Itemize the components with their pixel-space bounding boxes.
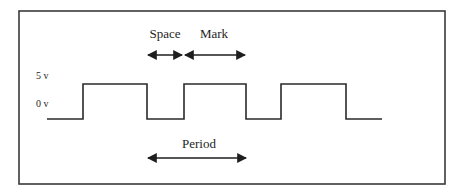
mark-label: Mark bbox=[200, 26, 229, 41]
low-level-label: 0 v bbox=[36, 98, 49, 109]
square-wave-diagram: 5 v 0 v Space Mark Period bbox=[0, 0, 462, 193]
square-waveform bbox=[47, 84, 382, 119]
space-label: Space bbox=[149, 26, 180, 41]
period-label: Period bbox=[182, 136, 216, 151]
high-level-label: 5 v bbox=[36, 70, 49, 81]
